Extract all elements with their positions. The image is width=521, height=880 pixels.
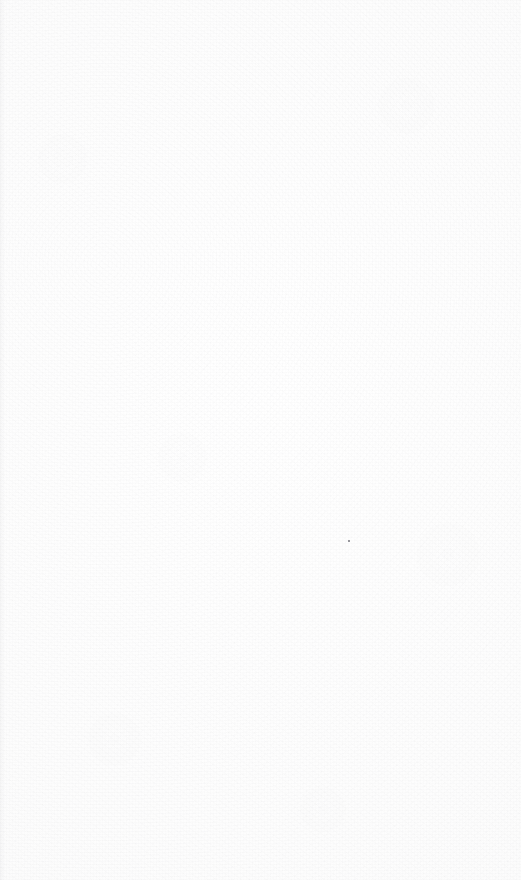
scanner-grain-fine-texture <box>0 0 521 880</box>
dust-speck-artifact <box>348 540 350 542</box>
scanner-grain-blotch-texture <box>0 0 521 880</box>
page-content-area <box>0 0 521 880</box>
scan-left-edge-shadow <box>0 0 5 880</box>
scanned-page <box>0 0 521 880</box>
scanner-grain-mottle-texture <box>0 0 521 880</box>
